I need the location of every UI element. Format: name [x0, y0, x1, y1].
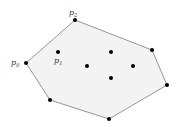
- point-h3: [150, 48, 154, 52]
- point-p0: [24, 61, 28, 65]
- point-i4: [109, 76, 113, 80]
- point-h5: [107, 117, 111, 121]
- point-i3: [131, 64, 135, 68]
- point-p2: [73, 18, 77, 22]
- point-h4: [165, 83, 169, 87]
- point-h6: [48, 98, 52, 102]
- convex-hull-diagram: p0 p1 p2: [0, 0, 176, 127]
- convex-hull-polygon: [26, 20, 167, 119]
- point-i1: [109, 50, 113, 54]
- point-p1: [56, 50, 60, 54]
- diagram-canvas: p0 p1 p2: [0, 0, 176, 127]
- label-p2: p2: [69, 8, 77, 18]
- point-i2: [85, 64, 89, 68]
- label-p0: p0: [11, 58, 20, 68]
